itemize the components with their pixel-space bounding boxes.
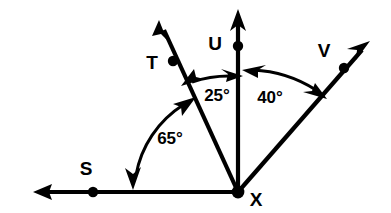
angle-sxt-arrowhead-lower [125, 167, 141, 190]
angle-uxv-label: 40° [257, 88, 283, 107]
point-dots-group [88, 41, 349, 199]
angle-txu-label: 25° [204, 86, 230, 105]
point-u-label: U [208, 33, 222, 54]
angle-sxt-label: 65° [157, 129, 183, 148]
point-v-label: V [318, 40, 331, 61]
point-s-dot [88, 187, 98, 197]
geometry-canvas: S T U V X 65° 25° 40° [0, 0, 391, 213]
point-t-dot [168, 56, 178, 66]
angle-labels-group: 65° 25° 40° [157, 86, 283, 148]
point-v-dot [339, 63, 349, 73]
angle-uxv-arc [253, 70, 316, 90]
point-s-label: S [80, 158, 93, 179]
point-x-label: X [250, 189, 263, 210]
point-x-dot [232, 186, 245, 199]
point-u-dot [233, 41, 243, 51]
geometry-figure: S T U V X 65° 25° 40° [0, 0, 391, 213]
angle-sxt-arrowhead-upper [173, 97, 196, 116]
angle-uxv-group [242, 65, 327, 99]
point-t-label: T [146, 52, 158, 73]
